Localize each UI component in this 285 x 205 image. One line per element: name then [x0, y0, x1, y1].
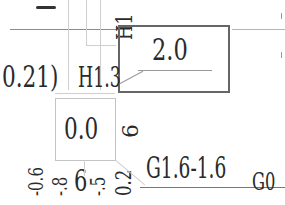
bottom-label-neg-5: -.5	[88, 177, 108, 196]
right-tick-bottom	[281, 52, 282, 58]
left-dimension-label: 0.21)	[2, 62, 59, 92]
g0-label: G0	[252, 170, 275, 194]
bottom-label-neg-0-6: -0.6	[26, 167, 46, 196]
grid-line-vertical-a	[68, 0, 69, 90]
h13-label: H1.3	[78, 64, 121, 92]
grid-line-horizontal-right	[232, 29, 285, 30]
rotated-six-label: 6	[120, 124, 142, 138]
g-range-label: G1.6-1.6	[146, 153, 226, 183]
value-box-top-underline	[138, 70, 212, 71]
grid-line-vertical-b	[86, 0, 87, 45]
value-box-top: 2.0	[118, 25, 230, 93]
value-box-mid: 0.0	[55, 98, 116, 161]
top-dash-mark	[36, 6, 56, 9]
value-box-mid-text: 0.0	[64, 114, 98, 144]
grid-line-horizontal-small	[86, 45, 116, 46]
right-tick-top	[281, 13, 282, 19]
bottom-label-neg-8: -.8	[50, 177, 70, 196]
value-box-top-text: 2.0	[152, 35, 188, 65]
bottom-tick-line	[84, 160, 85, 176]
